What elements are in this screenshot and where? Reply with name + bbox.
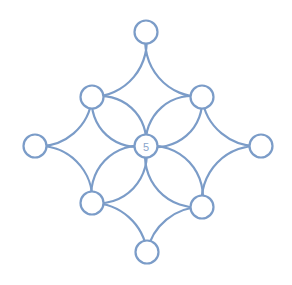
node-circle[interactable] bbox=[81, 192, 104, 215]
node-left[interactable] bbox=[24, 135, 47, 158]
node-circle[interactable] bbox=[191, 196, 214, 219]
node-right[interactable] bbox=[250, 135, 273, 158]
node-label: 5 bbox=[143, 141, 149, 153]
node-center[interactable]: 5 bbox=[135, 135, 158, 158]
node-circle[interactable] bbox=[136, 241, 159, 264]
node-circle[interactable] bbox=[81, 86, 104, 109]
node-circle[interactable] bbox=[250, 135, 273, 158]
node-circle[interactable] bbox=[24, 135, 47, 158]
node-upper-right[interactable] bbox=[191, 86, 214, 109]
circle-diagram: 5 bbox=[0, 0, 292, 285]
node-circle[interactable] bbox=[135, 21, 158, 44]
node-top[interactable] bbox=[135, 21, 158, 44]
node-circle[interactable] bbox=[191, 86, 214, 109]
node-lower-left[interactable] bbox=[81, 192, 104, 215]
node-bottom[interactable] bbox=[136, 241, 159, 264]
node-lower-right[interactable] bbox=[191, 196, 214, 219]
node-upper-left[interactable] bbox=[81, 86, 104, 109]
